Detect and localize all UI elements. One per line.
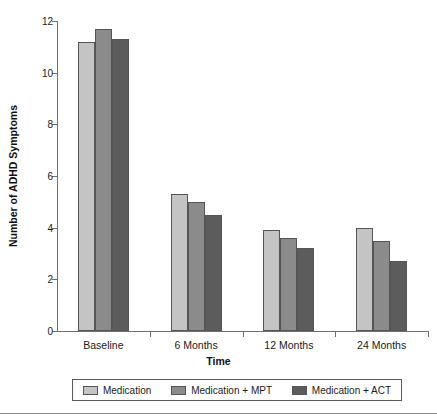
y-tick-label: 10 bbox=[42, 67, 53, 78]
bar[interactable] bbox=[373, 241, 390, 331]
x-tick-mark bbox=[428, 331, 429, 337]
legend-item[interactable]: Medication + ACT bbox=[292, 385, 391, 396]
bar[interactable] bbox=[78, 42, 95, 331]
y-tick-label: 0 bbox=[47, 326, 53, 337]
legend-label: Medication bbox=[103, 385, 151, 396]
legend-label: Medication + MPT bbox=[191, 385, 272, 396]
chart-legend: MedicationMedication + MPTMedication + A… bbox=[72, 379, 402, 401]
x-tick-label: Baseline bbox=[83, 339, 123, 351]
y-tick-label: 2 bbox=[47, 274, 53, 285]
x-tick-label: 24 Months bbox=[357, 339, 406, 351]
bar[interactable] bbox=[356, 228, 373, 331]
chart-figure: 024681012 Number of ADHD Symptoms Baseli… bbox=[0, 0, 437, 420]
plot-area bbox=[57, 21, 428, 331]
legend-item[interactable]: Medication bbox=[83, 385, 151, 396]
bar[interactable] bbox=[280, 238, 297, 331]
y-tick-label: 12 bbox=[42, 16, 53, 27]
x-tick-mark bbox=[335, 331, 336, 337]
legend-label: Medication + ACT bbox=[312, 385, 391, 396]
page-divider-rule bbox=[0, 413, 437, 414]
bar[interactable] bbox=[297, 248, 314, 331]
x-tick-mark bbox=[150, 331, 151, 337]
legend-swatch-icon bbox=[171, 386, 186, 395]
bar-group bbox=[78, 21, 129, 331]
y-tick-label: 6 bbox=[47, 171, 53, 182]
x-tick-label: 6 Months bbox=[175, 339, 218, 351]
x-axis-title: Time bbox=[0, 355, 437, 367]
bar-group bbox=[263, 21, 314, 331]
bar[interactable] bbox=[95, 29, 112, 331]
x-tick-label: 12 Months bbox=[264, 339, 313, 351]
bar[interactable] bbox=[188, 202, 205, 331]
bar[interactable] bbox=[112, 39, 129, 331]
bar-group bbox=[171, 21, 222, 331]
legend-item[interactable]: Medication + MPT bbox=[171, 385, 272, 396]
legend-swatch-icon bbox=[292, 386, 307, 395]
bar[interactable] bbox=[263, 230, 280, 331]
y-tick-label: 4 bbox=[47, 222, 53, 233]
bar-group bbox=[356, 21, 407, 331]
legend-swatch-icon bbox=[83, 386, 98, 395]
x-tick-mark bbox=[243, 331, 244, 337]
bar[interactable] bbox=[205, 215, 222, 331]
y-axis-title: Number of ADHD Symptoms bbox=[7, 105, 19, 247]
bar[interactable] bbox=[171, 194, 188, 331]
y-tick-label: 8 bbox=[47, 119, 53, 130]
bar[interactable] bbox=[390, 261, 407, 331]
